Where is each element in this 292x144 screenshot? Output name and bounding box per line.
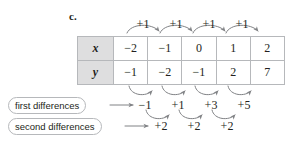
- first-difference-value-4: +5: [231, 99, 257, 111]
- second-differences-callout: second differences: [8, 118, 102, 135]
- cell-x-2: −1: [148, 37, 182, 61]
- second-difference-value-3: +2: [214, 120, 240, 132]
- cell-x-4: 1: [216, 37, 250, 61]
- part-letter: c.: [69, 10, 77, 22]
- second-difference-value-2: +2: [181, 120, 207, 132]
- row-header-y: y: [78, 61, 114, 85]
- first-differences-callout: first differences: [8, 97, 86, 114]
- x-step-label-4: +1: [229, 18, 255, 30]
- x-step-label-2: +1: [163, 18, 189, 30]
- xy-data-table: x −2 −1 0 1 2 y −1 −2 −1 2 7: [77, 36, 285, 85]
- x-step-label-3: +1: [196, 18, 222, 30]
- cell-y-4: 2: [216, 61, 250, 85]
- first-difference-value-1: −1: [132, 99, 158, 111]
- cell-y-2: −2: [148, 61, 182, 85]
- cell-x-3: 0: [182, 37, 216, 61]
- difference-table-figure: c.: [0, 0, 292, 144]
- second-difference-value-1: +2: [148, 120, 174, 132]
- x-step-label-1: +1: [130, 18, 156, 30]
- cell-y-1: −1: [114, 61, 148, 85]
- cell-y-3: −1: [182, 61, 216, 85]
- cell-x-5: 2: [250, 37, 284, 61]
- row-header-x: x: [78, 37, 114, 61]
- first-difference-value-2: +1: [165, 99, 191, 111]
- cell-x-1: −2: [114, 37, 148, 61]
- cell-y-5: 7: [250, 61, 284, 85]
- table-row-x: x −2 −1 0 1 2: [78, 37, 285, 61]
- first-difference-value-3: +3: [198, 99, 224, 111]
- table-row-y: y −1 −2 −1 2 7: [78, 61, 285, 85]
